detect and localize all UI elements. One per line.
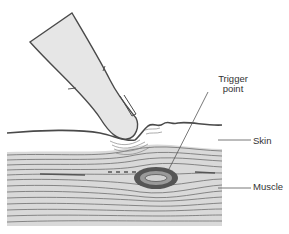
trigger-point-nodule [134, 167, 178, 189]
skin-label: Skin [253, 136, 271, 146]
trigger-point-diagram [0, 0, 289, 234]
finger [30, 13, 138, 139]
trigger-point-label: Trigger point [215, 74, 251, 94]
trigger-point-label-line2: point [215, 84, 251, 94]
muscle-tissue [7, 144, 222, 226]
muscle-label: Muscle [253, 182, 283, 192]
